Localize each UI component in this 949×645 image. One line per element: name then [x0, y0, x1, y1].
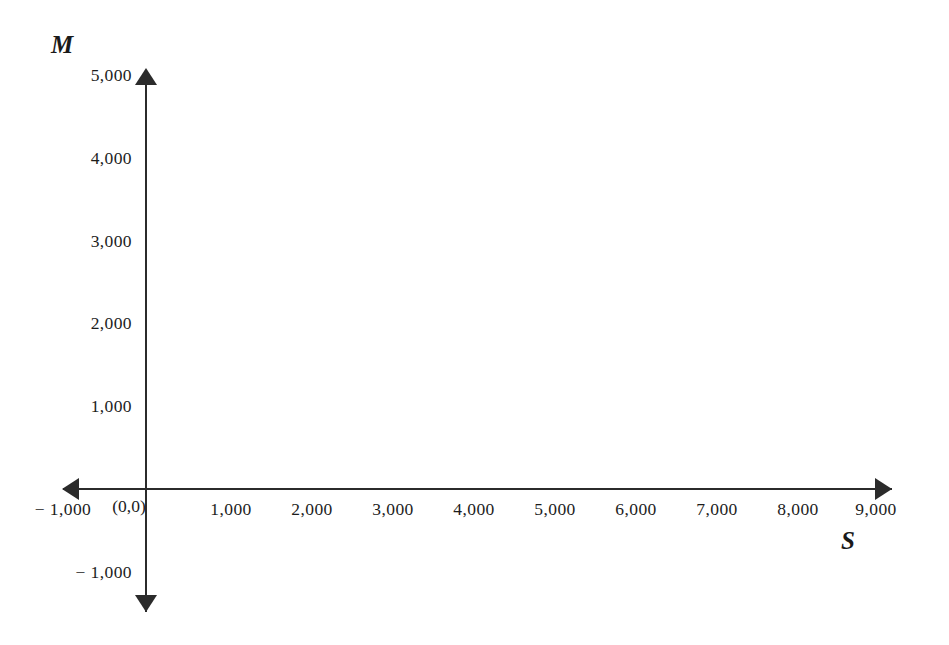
plot-area — [146, 72, 892, 489]
y-tick-label-5000: 5,000 — [57, 65, 132, 86]
origin-label: (0,0) — [112, 496, 146, 517]
x-tick-label-9000: 9,000 — [855, 499, 896, 520]
x-tick-label-5000: 5,000 — [534, 499, 575, 520]
x-tick-label-3000: 3,000 — [372, 499, 413, 520]
x-tick-label-4000: 4,000 — [453, 499, 494, 520]
x-tick-label-8000: 8,000 — [777, 499, 818, 520]
x-tick-label-minus-1000: − 1,000 — [35, 499, 91, 520]
y-tick-label-minus-1000: − 1,000 — [42, 562, 132, 583]
y-axis-title: M — [51, 31, 73, 59]
y-tick-label-4000: 4,000 — [57, 148, 132, 169]
y-tick-label-1000: 1,000 — [57, 396, 132, 417]
chart-figure: M S (0,0) 5,000 4,000 3,000 2,000 1,000 … — [0, 0, 949, 645]
x-tick-label-1000: 1,000 — [210, 499, 251, 520]
y-tick-label-3000: 3,000 — [57, 231, 132, 252]
y-axis-down-arrow-icon — [135, 595, 157, 612]
y-tick-label-2000: 2,000 — [57, 313, 132, 334]
x-axis-title: S — [841, 527, 855, 555]
x-tick-label-7000: 7,000 — [696, 499, 737, 520]
x-tick-label-2000: 2,000 — [291, 499, 332, 520]
x-tick-label-6000: 6,000 — [615, 499, 656, 520]
x-axis-left-arrow-icon — [62, 478, 79, 500]
